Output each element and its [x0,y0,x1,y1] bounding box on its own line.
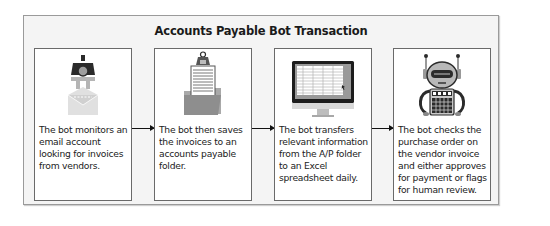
robot-calculator-icon [394,51,490,121]
arrow-step-3-to-4 [372,128,393,129]
robot-claw-envelope-icon [35,51,131,121]
step-1-description: The bot monitors an email account lookin… [39,124,128,172]
diagram-frame: Accounts Payable Bot Transaction The bot… [23,15,499,205]
step-3-description: The bot transfers relevant information f… [279,124,368,184]
step-3-box: The bot transfers relevant information f… [274,48,372,201]
clipboard-folder-icon [155,51,251,121]
diagram-title: Accounts Payable Bot Transaction [24,24,498,38]
arrow-step-2-to-3 [252,128,274,129]
step-4-description: The bot checks the purchase order on the… [398,124,487,196]
step-1-box: The bot monitors an email account lookin… [34,48,132,201]
step-2-description: The bot then saves the invoices to an ac… [159,124,248,172]
arrow-step-1-to-2 [132,128,154,129]
monitor-spreadsheet-icon [275,51,371,121]
step-4-box: The bot checks the purchase order on the… [393,48,491,201]
step-2-box: The bot then saves the invoices to an ac… [154,48,252,201]
